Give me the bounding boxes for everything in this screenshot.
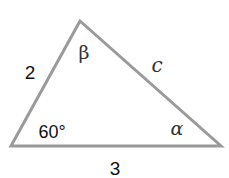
side-left-label: 2 <box>25 62 36 83</box>
side-right-label: c <box>151 53 162 77</box>
angle-top-label: β <box>79 41 90 63</box>
angle-left-label: 60° <box>38 122 65 142</box>
angle-right-label: α <box>171 117 184 139</box>
side-bottom-label: 3 <box>110 158 121 178</box>
triangle-diagram: 2 β c 60° α 3 <box>0 0 229 178</box>
